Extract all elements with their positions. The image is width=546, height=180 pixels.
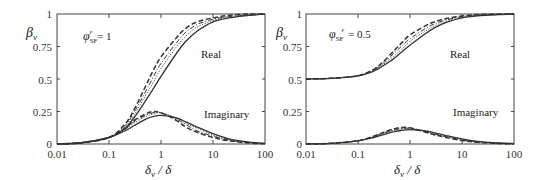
curve-dashed	[306, 14, 514, 79]
label-imaginary: Imaginary	[453, 106, 499, 118]
x-tick-001: 0.01	[296, 148, 315, 160]
y-tick-075: 0.75	[283, 41, 303, 53]
figure: 0 0.25 0.5 0.75 1 0.01 0.1 1 10 100 βv	[0, 0, 546, 180]
x-axis-label: δv / δ	[145, 162, 172, 179]
y-axis-label: βv	[275, 25, 287, 42]
panel-left: 0 0.25 0.5 0.75 1 0.01 0.1 1 10 100 βv	[25, 8, 274, 179]
label-imaginary: Imaginary	[204, 108, 250, 120]
panel-right: 0 0.25 0.5 0.75 1 0.01 0.1 1 10 100 βv	[275, 8, 523, 179]
y-tick-025: 0.25	[33, 106, 53, 118]
x-tick-001: 0.01	[47, 148, 66, 160]
label-real: Real	[201, 48, 221, 60]
x-tick-01: 0.1	[351, 148, 365, 160]
x-tick-01: 0.1	[102, 148, 116, 160]
x-axis-label: δv / δ	[394, 162, 421, 179]
curve-solid	[306, 14, 514, 79]
y-tick-1: 1	[47, 8, 53, 20]
y-tick-05: 0.5	[288, 74, 302, 86]
x-tick-100: 100	[257, 148, 274, 160]
x-tick-10: 10	[457, 148, 469, 160]
param-annotation: φSFε = 1	[83, 28, 111, 45]
y-tick-075: 0.75	[33, 41, 53, 53]
y-axis-label: βv	[25, 25, 37, 42]
x-tick-1: 1	[158, 148, 164, 160]
plot-frame	[306, 14, 514, 144]
curves	[306, 14, 514, 144]
curve-dashdot	[306, 14, 514, 79]
y-tick-05: 0.5	[38, 74, 52, 86]
y-tick-1: 1	[297, 8, 303, 20]
curve-dotted	[306, 14, 514, 79]
param-annotation: φSFε = 0.5	[329, 26, 371, 43]
x-tick-10: 10	[208, 148, 220, 160]
label-real: Real	[450, 48, 470, 60]
x-tick-100: 100	[506, 148, 523, 160]
x-ticks: 0.01 0.1 1 10 100	[47, 14, 273, 160]
x-tick-1: 1	[407, 148, 413, 160]
y-tick-025: 0.25	[283, 106, 303, 118]
